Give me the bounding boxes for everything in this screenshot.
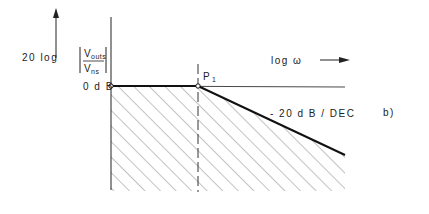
p1-point (196, 84, 200, 88)
slope-label: - 20 d B / DEC (270, 108, 355, 119)
numerator-sub: outs (91, 53, 106, 60)
y-axis-label-prefix: 20 log (22, 52, 58, 63)
zero-db-label: 0 d B (83, 81, 114, 92)
panel-label: b) (383, 107, 395, 118)
x-axis-arrow-icon (320, 57, 350, 63)
p1-label: P (203, 71, 211, 82)
x-axis-label: log ω (271, 55, 302, 66)
denominator-sub: ns (91, 68, 99, 75)
p1-sub: 1 (212, 76, 216, 83)
y-axis-arrow-icon (53, 8, 59, 58)
bode-diagram: 20 log V outs V ns 0 d B P 1 log ω - 20 … (0, 0, 429, 214)
